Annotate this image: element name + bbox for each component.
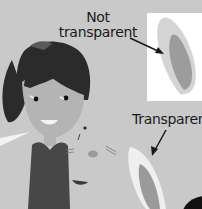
transparent-ear-icon <box>128 147 166 209</box>
illustration: Not transparent Transparent <box>0 0 202 209</box>
arrow-icon <box>151 130 166 156</box>
light-wedge <box>0 132 30 146</box>
label-line: Not <box>86 9 110 25</box>
label-line: transparent <box>59 24 138 40</box>
rabbit-figure <box>66 126 116 184</box>
transparent-label: Transparent <box>132 112 202 127</box>
dark-corner-shape <box>182 196 202 209</box>
not-transparent-label: Not transparent <box>58 10 138 40</box>
